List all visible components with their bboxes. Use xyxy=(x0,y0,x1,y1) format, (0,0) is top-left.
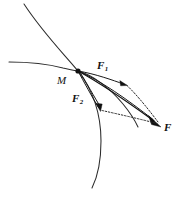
label-point-m: M xyxy=(57,75,66,86)
label-force-f2-base: F xyxy=(72,92,79,104)
label-force-f: F xyxy=(164,122,171,133)
label-force-f1: F1 xyxy=(97,60,108,71)
vector-f1-arrowhead xyxy=(120,81,128,86)
vector-group xyxy=(78,71,161,127)
vector-f-arrowhead xyxy=(149,116,162,128)
label-force-f1-subscript: 1 xyxy=(105,65,108,72)
force-diagram-canvas xyxy=(0,0,176,200)
label-force-f2-subscript: 2 xyxy=(80,98,83,105)
force-decomposition-figure: M F1 F2 F xyxy=(0,0,176,200)
point-m-marker xyxy=(75,68,80,73)
label-force-f2: F2 xyxy=(72,93,83,104)
label-force-f1-base: F xyxy=(97,59,104,71)
steep-curve xyxy=(24,4,101,188)
